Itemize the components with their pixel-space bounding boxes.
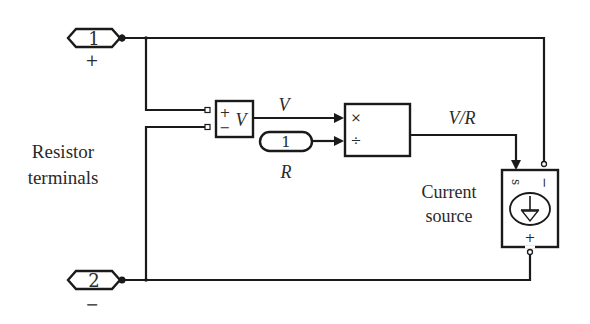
voltmeter-plus-port (205, 108, 210, 113)
port-2-block[interactable]: 2 (68, 270, 126, 291)
port-1-polarity: + (85, 51, 98, 70)
wire-to-vplus (146, 38, 207, 110)
product-divide-input: ÷ (351, 133, 362, 148)
voltmeter-minus-sign: − (220, 120, 231, 135)
resistor-terminals-label-line1: Resistor (32, 141, 95, 162)
wire-to-vminus (146, 127, 207, 280)
product-block[interactable]: × ÷ (345, 104, 410, 156)
voltmeter-plus-sign: + (220, 105, 231, 120)
product-multiply-input: × (351, 110, 362, 125)
current-source-plus-port (528, 250, 533, 255)
constant-r-label: R (280, 162, 292, 182)
diagram-canvas: 1 + 2 − Resistor terminals + − V V 1 R ×… (0, 0, 590, 324)
signal-vr-label: V/R (449, 108, 476, 128)
port-2-label: 2 (88, 270, 99, 291)
port-2-polarity: − (85, 295, 98, 314)
wire-bottom (122, 254, 530, 280)
current-source-label-line1: Current (422, 182, 477, 202)
junction-top (144, 36, 148, 40)
constant-r-block[interactable]: 1 (260, 132, 312, 151)
voltmeter-minus-port (205, 125, 210, 130)
current-source-minus-port (542, 162, 547, 167)
signal-vr (410, 135, 516, 168)
port-2-connector-icon (119, 277, 126, 284)
current-source-minus-label: − (537, 178, 552, 189)
voltmeter-block[interactable]: + − V (205, 101, 253, 137)
wires (122, 38, 544, 280)
port-1-label: 1 (88, 28, 99, 49)
current-source-block[interactable]: s − + (502, 162, 558, 255)
current-source-s-port: s (509, 179, 523, 185)
port-1-block[interactable]: 1 (68, 28, 126, 49)
constant-value: 1 (281, 133, 291, 151)
wire-top (122, 38, 544, 162)
junction-bottom (144, 278, 148, 282)
current-source-plus-label: + (525, 230, 536, 245)
resistor-terminals-label-line2: terminals (28, 167, 99, 188)
current-source-label-line2: source (426, 206, 473, 226)
signal-v-label: V (279, 95, 292, 115)
